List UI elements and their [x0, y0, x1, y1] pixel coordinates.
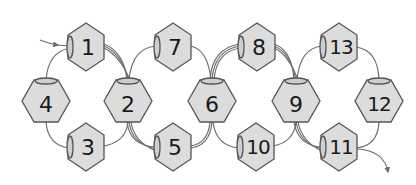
thread-end-arrow: [356, 149, 388, 172]
bead-12: 12: [355, 78, 403, 122]
bead-7: 7: [154, 23, 191, 71]
bead-label: 5: [168, 135, 182, 160]
bead-label: 6: [205, 92, 219, 117]
bead-label: 7: [168, 35, 182, 60]
bead-label: 2: [121, 92, 135, 117]
bead-label: 11: [329, 135, 352, 159]
bead-label: 4: [39, 92, 53, 117]
beads: 1 7 8 13 4 2 6: [22, 23, 403, 171]
bead-13: 13: [320, 23, 357, 71]
beading-diagram: 1 7 8 13 4 2 6: [0, 0, 416, 185]
thread-start-arrow: [40, 40, 58, 45]
bead-1: 1: [67, 23, 104, 71]
bead-11: 11: [320, 123, 357, 171]
bead-6: 6: [188, 78, 236, 122]
bead-9: 9: [272, 78, 320, 122]
bead-8: 8: [238, 23, 275, 71]
bead-label: 8: [252, 35, 266, 60]
bead-3: 3: [67, 123, 104, 171]
bead-label: 9: [289, 92, 303, 117]
bead-label: 13: [329, 35, 353, 59]
bead-10: 10: [237, 123, 274, 171]
bead-label: 1: [81, 35, 95, 60]
bead-2: 2: [104, 78, 152, 122]
bead-4: 4: [22, 78, 70, 122]
bead-label: 3: [81, 135, 95, 160]
bead-label: 12: [367, 92, 390, 116]
bead-label: 10: [246, 135, 270, 159]
bead-5: 5: [154, 123, 191, 171]
